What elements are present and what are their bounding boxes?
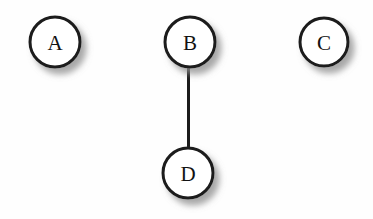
node-a-label: A — [47, 31, 63, 55]
node-b-label: B — [183, 31, 197, 55]
graph-canvas: A B C D — [0, 0, 373, 219]
node-c-label: C — [317, 31, 331, 55]
node-a[interactable]: A — [30, 17, 80, 67]
edge-b-d[interactable] — [188, 67, 189, 148]
node-d-label: D — [180, 162, 195, 186]
node-c[interactable]: C — [300, 18, 348, 66]
graph-diagram: A B C D — [0, 0, 373, 219]
node-d[interactable]: D — [163, 148, 213, 198]
node-b[interactable]: B — [165, 17, 215, 67]
